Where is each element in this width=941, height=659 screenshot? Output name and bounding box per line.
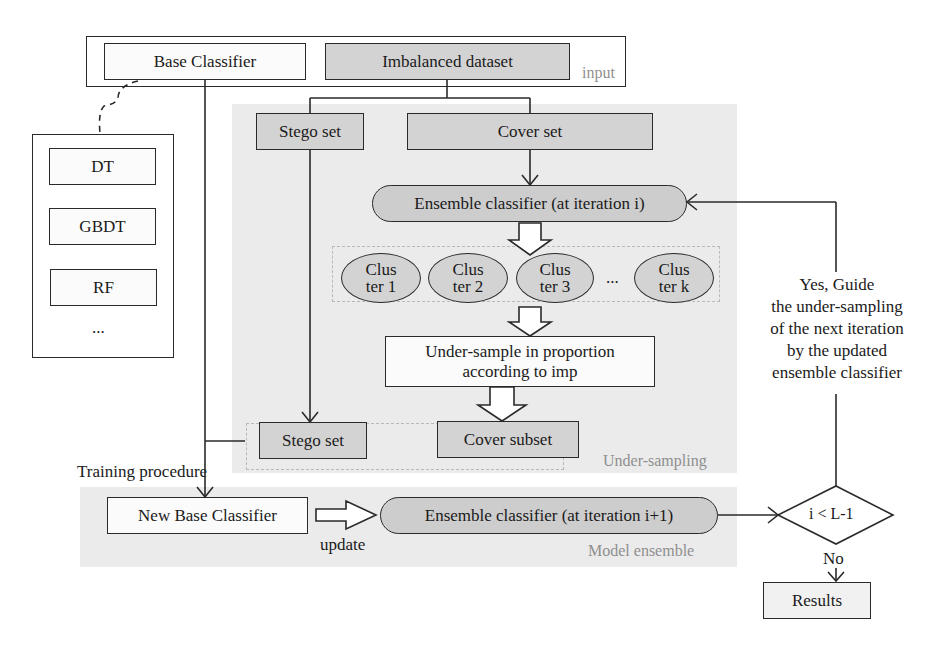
no-label: No (823, 549, 844, 569)
yes-label: Yes, Guide the under-sampling of the nex… (752, 274, 922, 384)
results-box[interactable]: Results (763, 582, 871, 619)
yes-label-line-5: ensemble classifier (752, 362, 922, 384)
yes-label-line-3: of the next iteration (752, 318, 922, 340)
decision-condition: i < L-1 (809, 505, 854, 523)
yes-label-line-1: Yes, Guide (752, 274, 922, 296)
yes-label-line-4: by the updated (752, 340, 922, 362)
yes-label-line-2: the under-sampling (752, 296, 922, 318)
